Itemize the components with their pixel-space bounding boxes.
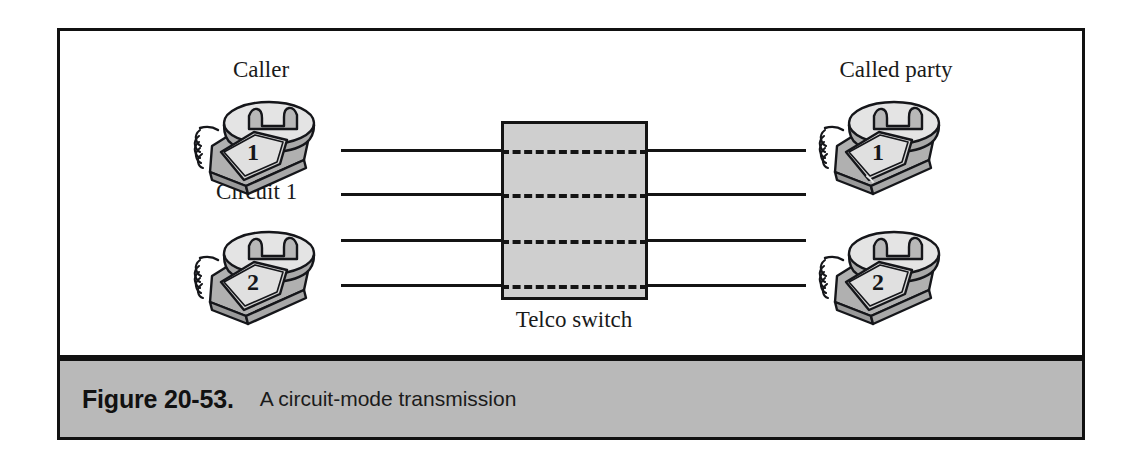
called-party-group-label: Called party [839,57,952,83]
wire-left-3 [341,239,504,242]
wire-left-2 [341,193,504,196]
switch-dashed-path-1 [501,150,648,154]
called-phone-1-digit: 1 [872,139,884,165]
caller-phone-1-digit: 1 [247,139,259,165]
wire-right-1 [645,149,806,152]
figure-caption-text: A circuit-mode transmission [260,387,517,411]
figure-number: Figure 20-53. [82,385,234,414]
figure-root: Caller Called party Circuit 1 Circuit 2 … [0,0,1145,460]
called-phone-1: 1 [811,94,949,198]
wire-right-3 [645,239,806,242]
switch-dashed-path-4 [501,285,648,289]
called-phone-2: 2 [811,224,949,328]
wire-left-4 [341,284,504,287]
switch-dashed-path-3 [501,240,648,244]
telco-switch-box [501,121,648,300]
figure-frame: Caller Called party Circuit 1 Circuit 2 … [57,28,1085,440]
diagram-canvas: Caller Called party Circuit 1 Circuit 2 … [60,31,1082,355]
called-phone-2-digit: 2 [872,269,884,295]
caller-phone-2-digit: 2 [247,269,259,295]
telco-switch-label: Telco switch [516,307,633,333]
caller-phone-1: 1 [186,94,324,198]
caller-phone-2: 2 [186,224,324,328]
wire-left-1 [341,149,504,152]
figure-caption-bar: Figure 20-53. A circuit-mode transmissio… [60,355,1082,437]
wire-right-4 [645,284,806,287]
switch-dashed-path-2 [501,194,648,198]
wire-right-2 [645,193,806,196]
caller-group-label: Caller [233,57,289,83]
